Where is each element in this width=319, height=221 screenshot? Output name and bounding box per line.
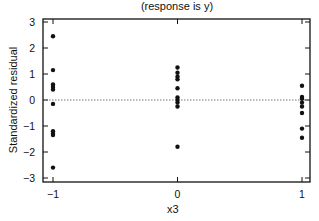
data-point [300,97,304,101]
data-point [300,100,304,104]
data-point [51,165,55,169]
x-tick-label: −1 [47,188,59,200]
scatter-plot: 3210−1−2−3 −101 [0,0,319,221]
y-tick-label: 2 [29,42,35,54]
data-point [51,87,55,91]
data-point [175,65,179,69]
y-tick-label: 1 [29,68,35,80]
y-tick-label: −1 [23,120,35,132]
data-point [175,104,179,108]
data-point [175,100,179,104]
data-point [300,111,304,115]
data-points [51,34,304,170]
x-axis-ticks: −101 [47,19,305,200]
x-tick-label: 1 [299,188,305,200]
data-point [175,77,179,81]
y-tick-label: 3 [29,16,35,28]
data-point [175,145,179,149]
y-tick-label: 0 [29,94,35,106]
y-tick-label: −2 [23,146,35,158]
data-point [300,104,304,108]
data-point [300,84,304,88]
data-point [51,102,55,106]
data-point [51,68,55,72]
x-tick-label: 0 [175,188,181,200]
data-point [175,86,179,90]
data-point [51,133,55,137]
data-point [175,71,179,75]
data-point [51,34,55,38]
y-tick-label: −3 [23,172,35,184]
data-point [300,136,304,140]
data-point [300,126,304,130]
